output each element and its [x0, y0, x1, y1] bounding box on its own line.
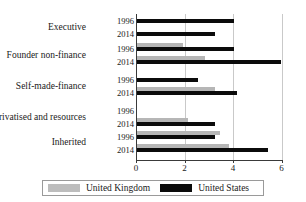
- category-label-privatised-and-resources: Privatised and resources: [0, 112, 86, 123]
- category-label-executive: Executive: [0, 22, 86, 33]
- bar-us-self-made-2014: [137, 91, 237, 95]
- bar-us-inherited-1996: [137, 135, 215, 139]
- bar-us-privatised-2014: [137, 122, 215, 126]
- legend-label-united-kingdom: United Kingdom: [86, 183, 150, 194]
- bar-us-executive-1996: [137, 19, 234, 23]
- year-label-founder-1996: 1996: [112, 44, 134, 54]
- bar-chart: 0 2 4 6 Executive 1996 2014 Founder non-…: [0, 0, 306, 202]
- x-tick-label-0: 0: [126, 163, 146, 174]
- bar-us-inherited-2014: [137, 148, 268, 152]
- legend-swatch-united-kingdom: [48, 184, 80, 192]
- year-label-executive-2014: 2014: [112, 29, 134, 39]
- year-label-executive-1996: 1996: [112, 16, 134, 26]
- x-axis-line: [136, 160, 282, 161]
- gridline-6: [282, 14, 283, 160]
- year-label-self-made-1996: 1996: [112, 75, 134, 85]
- year-label-privatised-1996: 1996: [112, 106, 134, 116]
- bar-us-founder-2014: [137, 60, 281, 64]
- x-tick-label-4: 4: [223, 163, 243, 174]
- year-label-inherited-2014: 2014: [112, 145, 134, 155]
- chart-legend: United Kingdom United States: [42, 180, 264, 196]
- bar-us-executive-2014: [137, 32, 215, 36]
- year-label-self-made-2014: 2014: [112, 88, 134, 98]
- legend-label-united-states: United States: [198, 183, 249, 194]
- legend-swatch-united-states: [160, 184, 192, 192]
- category-label-self-made-finance: Self-made-finance: [0, 81, 86, 92]
- year-label-founder-2014: 2014: [112, 57, 134, 67]
- year-label-inherited-1996: 1996: [112, 132, 134, 142]
- year-label-privatised-2014: 2014: [112, 119, 134, 129]
- category-label-founder-non-finance: Founder non-finance: [0, 50, 86, 61]
- category-label-inherited: Inherited: [0, 137, 86, 148]
- legend-entry-united-states: United States: [160, 183, 249, 194]
- bar-us-self-made-1996: [137, 78, 198, 82]
- x-tick-label-2: 2: [175, 163, 195, 174]
- bar-us-founder-1996: [137, 47, 234, 51]
- legend-entry-united-kingdom: United Kingdom: [48, 183, 150, 194]
- gridline-4: [233, 14, 234, 160]
- x-tick-label-6: 6: [272, 163, 292, 174]
